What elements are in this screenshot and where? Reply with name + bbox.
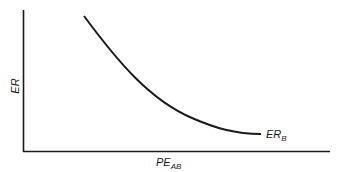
curve-label: ERB [266, 128, 287, 143]
er-b-curve [84, 16, 261, 134]
y-axis-label: ER [9, 78, 21, 93]
x-axis-label: PEAB [156, 156, 182, 171]
chart: ER PEAB ERB [0, 0, 343, 172]
